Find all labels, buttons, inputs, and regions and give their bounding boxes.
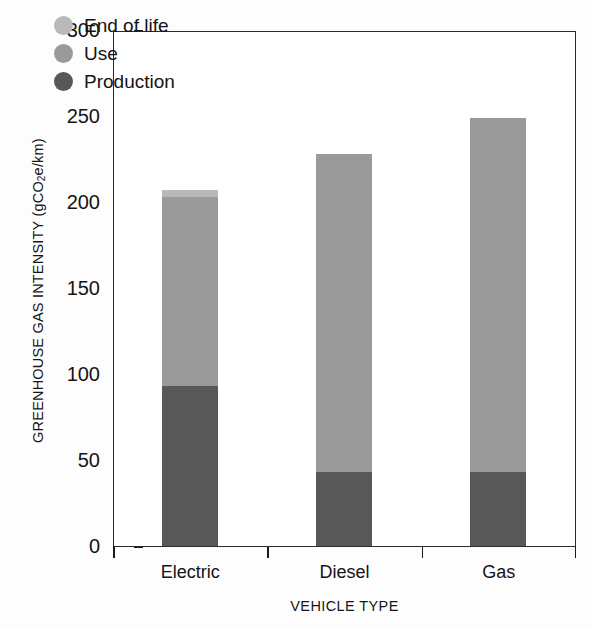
y-axis-tick-label: 250 (44, 106, 100, 126)
x-axis-tick-mark (267, 547, 269, 558)
legend-item-label: End of life (84, 16, 169, 35)
y-axis-tick-label: 0 (44, 536, 100, 556)
x-axis-title: VEHICLE TYPE (113, 598, 576, 614)
legend-circle-icon (54, 44, 73, 63)
chart-figure: GREENHOUSE GAS INTENSITY (gCO2e/km) 0501… (0, 0, 591, 628)
x-axis-tick-label: Gas (424, 562, 574, 583)
legend-circle-icon (54, 72, 73, 91)
bar-segment[interactable] (162, 197, 218, 386)
legend-item[interactable]: Use (54, 44, 175, 63)
plot-area (113, 31, 576, 547)
bar-segment[interactable] (316, 154, 372, 472)
bar-group[interactable] (470, 118, 526, 546)
bar-group[interactable] (316, 154, 372, 546)
x-axis-tick-mark (422, 547, 424, 558)
x-axis-tick-mark (113, 547, 115, 558)
y-axis-tick-labels: 050100150200250300 (30, 0, 100, 628)
y-axis-tick-label: 150 (44, 278, 100, 298)
bar-segment[interactable] (470, 118, 526, 472)
bar-segment[interactable] (316, 472, 372, 546)
bar-segment[interactable] (470, 472, 526, 546)
bar-segment[interactable] (162, 386, 218, 546)
x-axis-tick-label: Diesel (270, 562, 420, 583)
x-axis-tick-mark (575, 547, 577, 558)
bar-group[interactable] (162, 190, 218, 546)
legend-item-label: Use (84, 44, 118, 63)
x-axis-tick-label: Electric (115, 562, 265, 583)
legend-item-label: Production (84, 72, 175, 91)
chart-legend: End of lifeUseProduction (54, 16, 175, 91)
y-axis-tick-label: 50 (44, 450, 100, 470)
bar-segment[interactable] (162, 190, 218, 197)
y-axis-tick-label: 200 (44, 192, 100, 212)
legend-item[interactable]: Production (54, 72, 175, 91)
y-axis-tick-label: 100 (44, 364, 100, 384)
legend-circle-icon (54, 16, 73, 35)
legend-item[interactable]: End of life (54, 16, 175, 35)
